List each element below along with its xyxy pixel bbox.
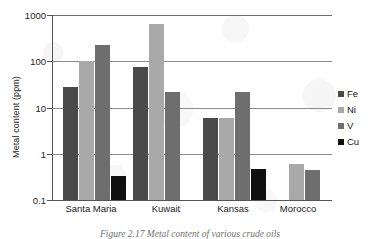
plot-area [52,15,332,201]
legend-label-v: V [347,121,353,131]
legend-item-v: V [338,118,359,134]
bar-morocco-v [305,170,320,200]
bar-santa-maria-fe [63,87,78,200]
y-tick-label-1: 1 [10,149,46,160]
legend-swatch-fe-icon [338,91,344,97]
legend: Fe Ni V Cu [338,86,359,150]
bar-kansas-fe [203,118,218,200]
x-tick-label-morocco: Morocco [267,203,329,214]
bar-santa-maria-ni [79,61,94,200]
legend-item-ni: Ni [338,102,359,118]
legend-swatch-v-icon [338,123,344,129]
bar-kuwait-ni [149,24,164,200]
x-tick-label-santa-maria: Santa Maria [58,203,124,214]
figure-caption: Figure 2.17 Metal content of various cru… [0,229,380,239]
legend-swatch-cu-icon [338,139,344,145]
bar-kansas-ni [219,118,234,200]
bar-kuwait-v [165,92,180,200]
bar-santa-maria-v [95,45,110,200]
legend-swatch-ni-icon [338,107,344,113]
x-tick-label-kuwait: Kuwait [136,203,196,214]
bar-santa-maria-cu [111,176,126,200]
bar-kuwait-fe [133,67,148,200]
y-tick-label-100: 100 [10,56,46,67]
y-tick-label-10: 10 [10,103,46,114]
bar-kansas-v [235,92,250,200]
figure-container: Metal content (ppm) 1000 100 10 1 0.1 [0,0,380,239]
x-tick-label-kansas: Kansas [203,203,263,214]
bar-kansas-cu [251,169,266,200]
legend-item-cu: Cu [338,134,359,150]
legend-item-fe: Fe [338,86,359,102]
y-tick-label-1000: 1000 [10,10,46,21]
gridline-1000 [53,15,332,16]
y-tick-label-0.1: 0.1 [10,195,46,206]
y-axis-title: Metal content (ppm) [11,52,21,182]
legend-label-fe: Fe [347,89,358,99]
legend-label-cu: Cu [347,137,359,147]
bar-morocco-ni [289,164,304,200]
legend-label-ni: Ni [347,105,356,115]
